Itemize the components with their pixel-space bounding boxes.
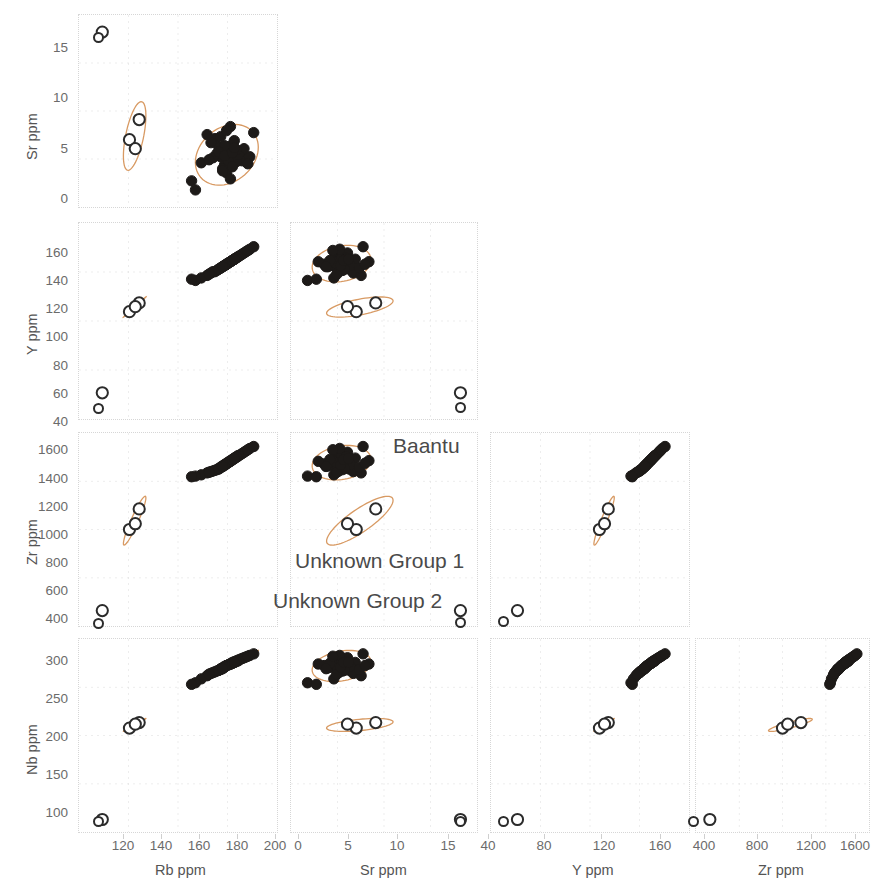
- data-point-filled: [229, 142, 239, 152]
- data-point-filled: [343, 254, 353, 264]
- x-tick-sr-0: 0: [283, 838, 313, 853]
- x-tick-zr-400: 400: [683, 838, 725, 853]
- y-tick-nb-100: 100: [18, 805, 68, 820]
- panel-y-vs-nb: [490, 638, 690, 833]
- data-point-open: [512, 814, 523, 825]
- panel-rb-vs-nb: [78, 638, 278, 833]
- x-tick-sr-10: 10: [379, 838, 415, 853]
- data-point-open: [130, 301, 141, 312]
- y-tick-zr-1400: 1400: [10, 471, 68, 486]
- data-point-filled: [328, 651, 338, 661]
- data-point-open: [134, 503, 145, 514]
- data-point-open: [599, 518, 610, 529]
- data-point-filled: [229, 254, 239, 264]
- x-tick-mark: [298, 834, 299, 839]
- outlier-marker-rb-nb: [93, 816, 104, 827]
- data-point-filled: [328, 445, 338, 455]
- x-tick-zr-1600: 1600: [831, 838, 876, 853]
- panel-plot-area: [79, 433, 277, 626]
- data-point-filled: [217, 166, 227, 176]
- panel-plot-area: [491, 433, 689, 626]
- legend-label-group1: Unknown Group 1: [295, 549, 464, 573]
- data-point-filled: [249, 649, 259, 659]
- y-tick-sr-5: 5: [22, 141, 68, 156]
- data-point-filled: [217, 261, 227, 271]
- panel-plot-area: [696, 639, 869, 832]
- data-point-open: [455, 605, 466, 616]
- x-tick-y-80: 80: [526, 838, 562, 853]
- data-point-open: [512, 605, 523, 616]
- data-point-open: [370, 297, 381, 308]
- data-point-filled: [249, 127, 259, 137]
- y-tick-zr-400: 400: [10, 611, 68, 626]
- x-axis-label-rb: Rb ppm: [155, 862, 206, 878]
- data-point-open: [603, 503, 614, 514]
- outlier-marker-rb-zr: [93, 618, 104, 629]
- x-tick-mark: [348, 834, 349, 839]
- panel-plot-area: [79, 15, 277, 207]
- data-point-filled: [186, 472, 196, 482]
- data-point-filled: [249, 441, 259, 451]
- data-point-filled: [204, 467, 214, 477]
- y-tick-y-80: 80: [22, 358, 68, 373]
- legend-label-baantu: Baantu: [393, 434, 460, 458]
- x-tick-zr-1200: 1200: [787, 838, 835, 853]
- y-tick-nb-200: 200: [18, 729, 68, 744]
- data-point-open: [342, 719, 353, 730]
- y-tick-zr-800: 800: [10, 555, 68, 570]
- y-tick-sr-0: 0: [22, 191, 68, 206]
- data-point-open: [97, 387, 108, 398]
- data-point-filled: [660, 441, 670, 451]
- data-point-filled: [627, 472, 637, 482]
- data-point-open: [130, 719, 141, 730]
- data-point-filled: [360, 259, 370, 269]
- x-tick-y-160: 160: [639, 838, 681, 853]
- data-point-filled: [647, 453, 657, 463]
- data-point-filled: [358, 441, 368, 451]
- data-point-filled: [321, 261, 331, 271]
- x-axis-label-sr: Sr ppm: [360, 862, 407, 878]
- data-point-filled: [647, 657, 657, 667]
- y-tick-y-40: 40: [22, 414, 68, 429]
- legend-label-group2: Unknown Group 2: [273, 589, 442, 613]
- y-tick-nb-300: 300: [18, 653, 68, 668]
- data-point-open: [704, 814, 715, 825]
- outlier-marker-y-zr: [498, 616, 509, 627]
- y-tick-y-100: 100: [22, 329, 68, 344]
- panel-sr-vs-nb: [290, 638, 478, 833]
- data-point-filled: [204, 669, 214, 679]
- data-point-filled: [229, 657, 239, 667]
- panel-plot-area: [491, 639, 689, 832]
- x-tick-mark: [397, 834, 398, 839]
- data-point-open: [130, 143, 141, 154]
- x-tick-zr-800: 800: [736, 838, 778, 853]
- data-point-filled: [627, 679, 637, 689]
- panel-plot-area: [79, 639, 277, 832]
- data-point-open: [130, 518, 141, 529]
- scatter-plot-matrix: Sr ppm Y ppm Zr ppm Nb ppm Rb ppm Sr ppm…: [0, 0, 876, 894]
- x-tick-sr-15: 15: [430, 838, 466, 853]
- data-point-filled: [852, 649, 862, 659]
- data-point-filled: [221, 125, 231, 135]
- y-tick-nb-250: 250: [18, 691, 68, 706]
- x-tick-mark: [704, 834, 705, 839]
- data-point-open: [97, 605, 108, 616]
- data-point-filled: [186, 274, 196, 284]
- x-tick-mark: [855, 834, 856, 839]
- data-point-filled: [360, 458, 370, 468]
- panel-rb-vs-y: [78, 222, 278, 420]
- y-tick-y-140: 140: [22, 273, 68, 288]
- data-point-filled: [825, 679, 835, 689]
- data-point-filled: [311, 679, 321, 689]
- data-point-filled: [225, 174, 235, 184]
- y-tick-zr-600: 600: [10, 583, 68, 598]
- data-point-filled: [360, 660, 370, 670]
- data-point-filled: [358, 242, 368, 252]
- confidence-ellipse: [327, 496, 393, 545]
- data-point-open: [134, 114, 145, 125]
- data-point-filled: [328, 245, 338, 255]
- data-point-open: [795, 717, 806, 728]
- x-tick-mark: [488, 834, 489, 839]
- y-tick-y-60: 60: [22, 386, 68, 401]
- x-tick-mark: [601, 834, 602, 839]
